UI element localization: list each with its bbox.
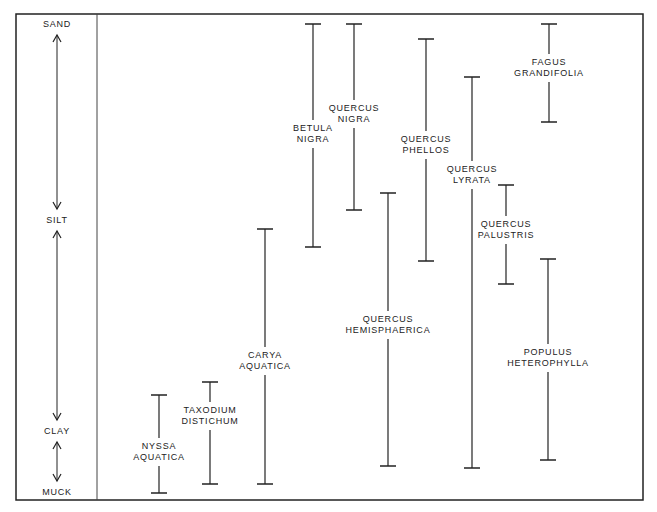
range-quercus-nigra: QUERCUSNIGRA <box>329 24 380 210</box>
range-quercus-hemisphaerica: QUERCUSHEMISPHAERICA <box>346 193 431 466</box>
species-label: HETEROPHYLLA <box>507 358 589 368</box>
species-label: TAXODIUM <box>183 405 236 415</box>
axis-label-muck: MUCK <box>42 487 72 497</box>
species-label: POPULUS <box>524 347 573 357</box>
range-fagus-grandifolia: FAGUSGRANDIFOLIA <box>514 24 584 122</box>
soil-texture-range-chart: SANDSILTCLAYMUCK NYSSAAQUATICATAXODIUMDI… <box>0 0 657 512</box>
range-populus-heterophylla: POPULUSHETEROPHYLLA <box>507 259 589 460</box>
species-ranges: NYSSAAQUATICATAXODIUMDISTICHUMCARYAAQUAT… <box>133 24 589 493</box>
axis-label-silt: SILT <box>46 215 68 225</box>
axis-label-sand: SAND <box>43 19 71 29</box>
species-label: CARYA <box>248 350 282 360</box>
species-label: BETULA <box>293 123 333 133</box>
range-quercus-palustris: QUERCUSPALUSTRIS <box>478 185 535 284</box>
species-label: NIGRA <box>338 114 371 124</box>
range-nyssa-aquatica: NYSSAAQUATICA <box>133 395 185 493</box>
species-label: FAGUS <box>532 57 567 67</box>
species-label: NYSSA <box>142 441 177 451</box>
range-quercus-phellos: QUERCUSPHELLOS <box>401 39 452 261</box>
range-betula-nigra: BETULANIGRA <box>293 24 333 247</box>
soil-axis: SANDSILTCLAYMUCK <box>42 19 72 497</box>
species-label: HEMISPHAERICA <box>346 325 431 335</box>
species-label: GRANDIFOLIA <box>514 68 584 78</box>
range-quercus-lyrata: QUERCUSLYRATA <box>447 77 498 468</box>
range-carya-aquatica: CARYAAQUATICA <box>239 229 291 484</box>
species-label: QUERCUS <box>481 219 532 229</box>
species-label: AQUATICA <box>239 361 291 371</box>
species-label: QUERCUS <box>363 314 414 324</box>
species-label: NIGRA <box>297 134 330 144</box>
species-label: QUERCUS <box>447 164 498 174</box>
species-label: AQUATICA <box>133 452 185 462</box>
species-label: PALUSTRIS <box>478 230 535 240</box>
species-label: LYRATA <box>453 175 491 185</box>
range-taxodium-distichum: TAXODIUMDISTICHUM <box>181 382 238 484</box>
species-label: QUERCUS <box>329 103 380 113</box>
species-label: QUERCUS <box>401 134 452 144</box>
species-label: PHELLOS <box>402 145 449 155</box>
species-label: DISTICHUM <box>181 416 238 426</box>
axis-label-clay: CLAY <box>44 426 70 436</box>
